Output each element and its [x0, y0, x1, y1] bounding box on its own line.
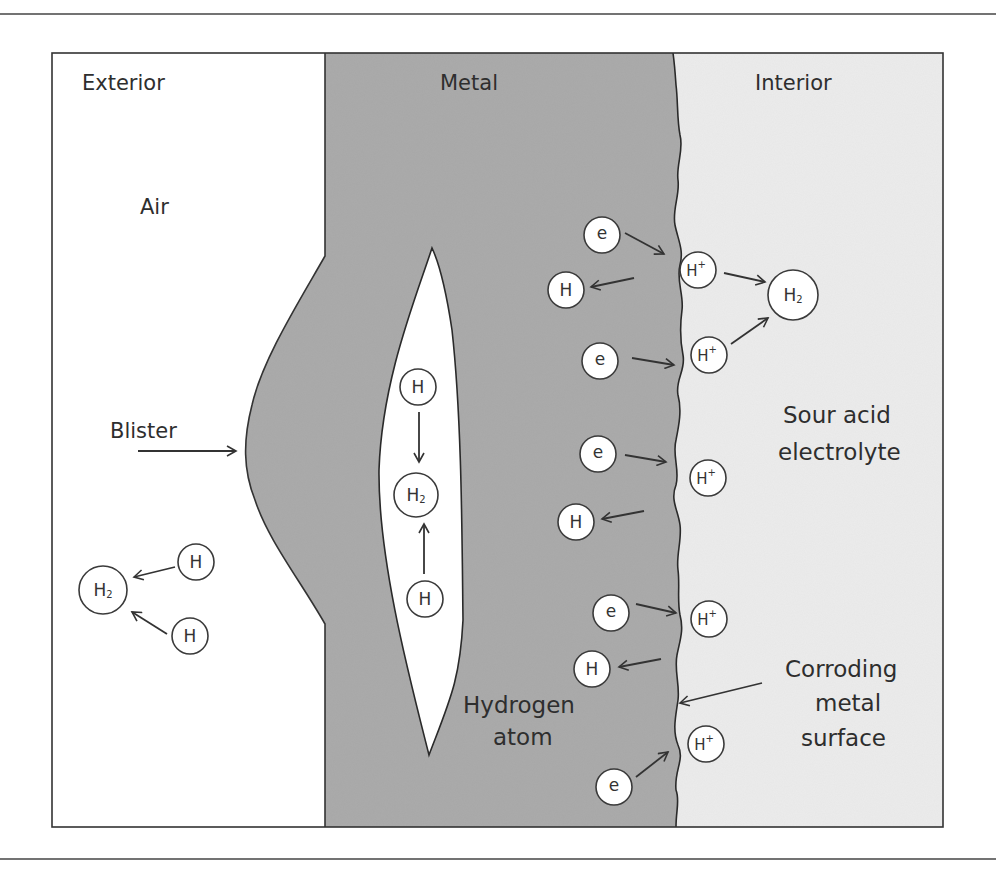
electrolyte-label: electrolyte: [778, 439, 901, 465]
svg-text:H: H: [560, 280, 573, 300]
svg-text:H: H: [419, 589, 432, 609]
svg-text:H: H: [586, 659, 599, 679]
electron-1: e: [584, 217, 620, 253]
metal-h-atom-3: H: [574, 651, 610, 687]
exterior-label: Exterior: [82, 71, 165, 95]
metal-h-atom-1: H: [548, 272, 584, 308]
hydrogen-ion-3: H+: [690, 460, 726, 496]
metal-surface-label: metal: [815, 690, 881, 716]
electron-4: e: [593, 595, 629, 631]
void-h2-molecule: H2: [394, 473, 438, 517]
sour-acid-label: Sour acid: [783, 402, 891, 428]
svg-text:e: e: [606, 601, 616, 621]
svg-text:H: H: [190, 552, 203, 572]
svg-text:e: e: [597, 223, 607, 243]
svg-text:e: e: [595, 349, 605, 369]
hydrogen-ion-5: H+: [688, 726, 724, 762]
interior-label: Interior: [755, 71, 832, 95]
hydrogen-atom-label-line2: atom: [493, 724, 553, 750]
svg-text:H: H: [570, 512, 583, 532]
air-label: Air: [140, 195, 169, 219]
electron-5: e: [596, 769, 632, 805]
electron-2: e: [582, 343, 618, 379]
hydrogen-ion-2: H+: [691, 337, 727, 373]
exterior-h2-molecule: H2: [79, 566, 127, 614]
svg-text:e: e: [593, 442, 603, 462]
metal-label: Metal: [440, 71, 498, 95]
hydrogen-atom-label-line1: Hydrogen: [463, 692, 575, 718]
void-h-atom-top: H: [400, 369, 436, 405]
electron-3: e: [580, 436, 616, 472]
void-h-atom-bottom: H: [407, 581, 443, 617]
interior-h2-molecule: H2: [768, 270, 818, 320]
hydrogen-ion-4: H+: [691, 601, 727, 637]
metal-h-atom-2: H: [558, 504, 594, 540]
corroding-label: Corroding: [785, 656, 897, 682]
svg-text:H: H: [184, 626, 197, 646]
hydrogen-blistering-diagram: Exterior Metal Interior Air Blister Sour…: [0, 0, 996, 875]
surface-label: surface: [801, 725, 886, 751]
blister-label: Blister: [110, 419, 177, 443]
svg-text:e: e: [609, 775, 619, 795]
exterior-h-atom-2: H: [172, 618, 208, 654]
svg-text:H: H: [412, 377, 425, 397]
hydrogen-ion-1: H+: [680, 252, 716, 288]
exterior-h-atom-1: H: [178, 544, 214, 580]
